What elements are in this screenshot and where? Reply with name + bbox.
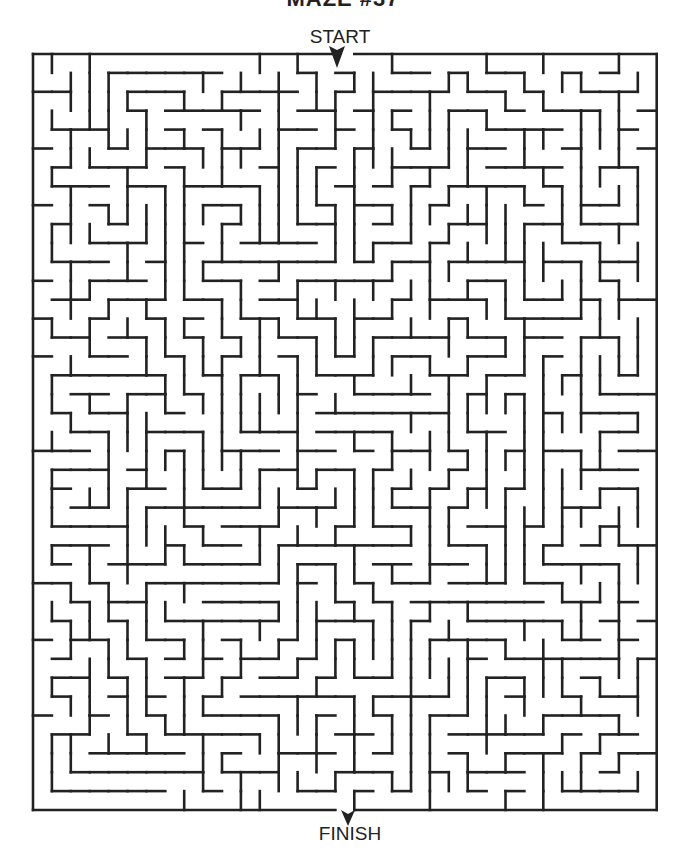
- start-arrow-icon: [329, 46, 345, 68]
- maze-grid[interactable]: [0, 0, 686, 852]
- finish-arrow-icon: [341, 810, 355, 826]
- maze-walls: [33, 54, 657, 810]
